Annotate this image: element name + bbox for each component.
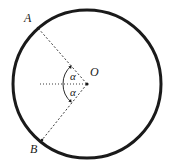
center-o-label: O [90,66,99,78]
geometry-canvas [0,0,171,167]
point-a-label: A [24,12,31,24]
radius-line-oa [38,28,87,84]
point-b-dot [41,139,44,142]
angle-alpha-lower-label: α [70,87,76,98]
geometry-figure: A B O α α [0,0,171,167]
point-b-label: B [30,143,37,155]
point-a-dot [37,27,40,30]
angle-alpha-upper-label: α [70,71,76,82]
center-point-dot [85,82,88,85]
